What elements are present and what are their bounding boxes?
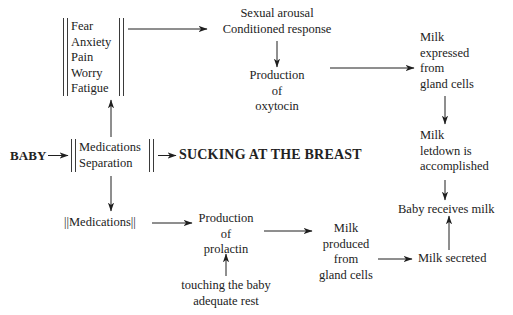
medsep-line-medications: Medications (79, 140, 141, 156)
oxytocin-line-2: of (232, 84, 322, 100)
diagram-canvas: Fear Anxiety Pain Worry Fatigue Sexual a… (0, 0, 513, 315)
sexual-arousal-line-2: Conditioned response (207, 22, 347, 38)
node-sucking-at-the-breast: SUCKING AT THE BREAST (179, 147, 362, 163)
node-prolactin: Production of prolactin (184, 211, 268, 258)
milk-produced-line-1: Milk (312, 221, 380, 237)
emotional-line-pain: Pain (71, 50, 111, 66)
node-milk-secreted: Milk secreted (418, 251, 486, 267)
emotional-bracket-left-outer (63, 18, 64, 96)
milk-expressed-line-3: from (420, 61, 474, 77)
medsep-bracket-right-inner (149, 139, 150, 172)
emotional-bracket-right-outer (123, 18, 124, 96)
facilitators-line-1: touching the baby (162, 278, 290, 294)
node-milk-produced: Milk produced from gland cells (312, 221, 380, 283)
oxytocin-line-3: oxytocin (232, 99, 322, 115)
milk-expressed-line-1: Milk (420, 30, 474, 46)
prolactin-line-3: prolactin (184, 242, 268, 258)
facilitators-line-2: adequate rest (162, 294, 290, 310)
node-sexual-arousal: Sexual arousal Conditioned response (207, 6, 347, 37)
medsep-bracket-left-outer (71, 139, 72, 172)
node-milk-letdown: Milk letdown is accomplished (420, 128, 489, 175)
medsep-line-separation: Separation (79, 156, 141, 172)
sexual-arousal-line-1: Sexual arousal (207, 6, 347, 22)
emotional-line-worry: Worry (71, 66, 111, 82)
milk-produced-line-4: gland cells (312, 268, 380, 284)
emotional-bracket-left-inner (67, 18, 68, 96)
milk-letdown-line-2: letdown is (420, 144, 489, 160)
node-inhibitor-medications: ||Medications|| (64, 215, 136, 231)
emotional-line-fatigue: Fatigue (71, 81, 111, 97)
node-baby: BABY (10, 148, 47, 164)
node-inhibitors-med-sep: Medications Separation (79, 140, 141, 171)
milk-expressed-line-4: gland cells (420, 77, 474, 93)
node-milk-expressed: Milk expressed from gland cells (420, 30, 474, 92)
milk-produced-line-3: from (312, 252, 380, 268)
medsep-bracket-right-outer (153, 139, 154, 172)
milk-letdown-line-3: accomplished (420, 159, 489, 175)
milk-produced-line-2: produced (312, 237, 380, 253)
emotional-line-fear: Fear (71, 19, 111, 35)
prolactin-line-2: of (184, 227, 268, 243)
milk-expressed-line-2: expressed (420, 46, 474, 62)
emotional-bracket-right-inner (119, 18, 120, 96)
oxytocin-line-1: Production (232, 68, 322, 84)
node-facilitators: touching the baby adequate rest (162, 278, 290, 309)
milk-letdown-line-1: Milk (420, 128, 489, 144)
node-oxytocin: Production of oxytocin (232, 68, 322, 115)
node-inhibitors-emotional: Fear Anxiety Pain Worry Fatigue (71, 19, 111, 97)
medsep-bracket-left-inner (75, 139, 76, 172)
prolactin-line-1: Production (184, 211, 268, 227)
emotional-line-anxiety: Anxiety (71, 35, 111, 51)
node-baby-receives-milk: Baby receives milk (398, 202, 495, 218)
